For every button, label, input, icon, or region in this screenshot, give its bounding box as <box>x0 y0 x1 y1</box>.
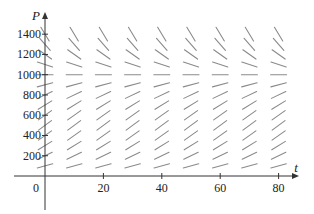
slope-segment <box>125 152 139 159</box>
slope-segment <box>242 152 256 159</box>
slope-segment <box>97 111 110 120</box>
slope-segment <box>125 62 140 67</box>
slope-segment <box>245 27 253 41</box>
slope-segment <box>214 121 227 130</box>
slope-segment <box>155 92 169 99</box>
slope-segment <box>97 141 111 149</box>
y-tick-label: 1000 <box>17 68 41 82</box>
slope-segment <box>183 83 198 87</box>
slope-segment <box>242 62 257 67</box>
slope-segment <box>272 141 286 149</box>
x-tick-label: 80 <box>273 181 285 195</box>
slope-segment <box>184 101 198 109</box>
slope-segment <box>155 121 168 130</box>
slope-segment <box>154 83 169 87</box>
slope-segment <box>271 83 286 87</box>
slope-segment <box>183 164 198 168</box>
slope-segment <box>154 164 169 168</box>
slope-segment <box>126 111 139 120</box>
slope-segment <box>155 50 168 59</box>
slope-segment <box>96 152 110 159</box>
slope-segment <box>214 111 227 120</box>
slope-segment <box>216 27 224 41</box>
slope-segment <box>66 83 81 87</box>
slope-segment <box>274 27 282 41</box>
slope-segment <box>213 92 227 99</box>
slope-segment <box>271 152 285 159</box>
slope-segment <box>271 92 285 99</box>
slope-segment <box>185 121 198 130</box>
slope-segment <box>184 50 197 59</box>
slope-segment <box>184 152 198 159</box>
slope-segment <box>243 101 257 109</box>
slope-segment <box>243 141 257 149</box>
slope-segment <box>126 121 139 130</box>
slope-segment <box>242 164 257 168</box>
slope-segment <box>213 141 227 149</box>
slope-segment <box>68 50 81 59</box>
y-tick-label: 600 <box>23 108 41 122</box>
slope-segment <box>126 101 140 109</box>
slope-segment <box>66 164 81 168</box>
x-tick-label: 20 <box>97 181 109 195</box>
slope-segment <box>184 92 198 99</box>
y-tick-label: 800 <box>23 88 41 102</box>
slope-segment <box>155 131 168 140</box>
slope-segment <box>97 131 110 140</box>
y-axis-label: P <box>31 8 40 23</box>
slope-segment <box>243 121 256 130</box>
origin-label: 0 <box>33 181 39 195</box>
y-tick-label: 1200 <box>17 47 41 61</box>
slope-segment <box>67 62 82 67</box>
slope-segment <box>70 27 78 41</box>
slope-segment <box>67 101 81 109</box>
slope-segment <box>271 164 286 168</box>
y-tick-label: 200 <box>23 149 41 163</box>
slope-segment <box>155 101 169 109</box>
slope-segment <box>212 164 227 168</box>
slope-segment <box>97 121 110 130</box>
slope-segment <box>96 92 110 99</box>
slope-segment <box>272 101 286 109</box>
slope-segment <box>125 92 139 99</box>
slope-segment <box>213 152 227 159</box>
slope-segment <box>183 62 198 67</box>
slope-segment <box>158 27 166 41</box>
slope-segment <box>126 50 139 59</box>
slope-segment <box>214 131 227 140</box>
slope-segment <box>271 62 286 67</box>
slope-segment <box>97 50 110 59</box>
slope-segment <box>242 92 256 99</box>
slope-segment <box>272 121 285 130</box>
slope-segment <box>154 62 169 67</box>
slope-segment <box>96 62 111 67</box>
slope-segment <box>97 101 111 109</box>
slope-segment <box>272 131 285 140</box>
slope-segment <box>126 141 140 149</box>
slope-segment <box>125 164 140 168</box>
y-axis-arrow-icon <box>42 12 48 19</box>
slope-segment <box>68 131 81 140</box>
x-tick-label: 60 <box>214 181 226 195</box>
slope-segment <box>243 111 256 120</box>
y-tick-label: 400 <box>23 128 41 142</box>
slope-segment <box>272 50 285 59</box>
slope-segments <box>37 27 287 168</box>
slope-segment <box>243 50 256 59</box>
slope-segment <box>213 101 227 109</box>
slope-segment <box>125 83 140 87</box>
slope-segment <box>155 111 168 120</box>
slope-segment <box>128 27 136 41</box>
slope-segment <box>155 152 169 159</box>
slope-segment <box>96 164 111 168</box>
slope-segment <box>184 111 197 120</box>
slope-field-chart: 204060802004006008001000120014000tP <box>0 0 314 214</box>
slope-segment <box>187 27 195 41</box>
slope-segment <box>272 111 285 120</box>
slope-segment <box>99 27 107 41</box>
slope-segment <box>67 152 81 159</box>
x-axis-label: t <box>294 160 298 175</box>
slope-segment <box>242 83 257 87</box>
slope-segment <box>68 121 81 130</box>
x-tick-label: 40 <box>156 181 168 195</box>
